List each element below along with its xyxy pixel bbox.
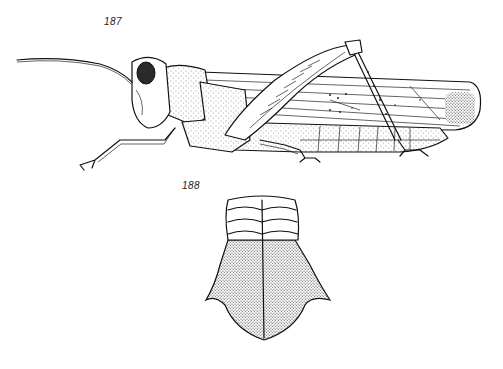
fore-leg	[80, 128, 175, 170]
compound-eye	[137, 62, 155, 84]
illustration-canvas	[0, 0, 503, 369]
figure-188-pronotum	[206, 196, 330, 340]
tegmen-dark-patch	[445, 92, 475, 124]
pronotum-posterior-lobe	[206, 240, 330, 340]
figure-187-grasshopper	[17, 40, 481, 170]
